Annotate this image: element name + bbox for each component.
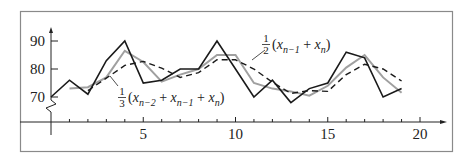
fraction-denominator: 2 bbox=[263, 44, 269, 56]
x-tick-label: 10 bbox=[228, 126, 243, 142]
y-axis-arrow-icon bbox=[49, 27, 53, 33]
moving-average-chart: 5101520 708090 1 2 (xn−1 + xn) 1 3 (xn−2… bbox=[0, 0, 470, 162]
x-axis-arrow-icon bbox=[440, 120, 447, 124]
fraction-numerator: 1 bbox=[119, 85, 125, 97]
x-tick-label: 20 bbox=[413, 126, 428, 142]
x-tick-label: 5 bbox=[140, 126, 148, 142]
annotation-third-average: 1 3 (xn−2 + xn−1 + xn) bbox=[110, 76, 225, 109]
series-lines bbox=[51, 41, 402, 103]
y-tick-label: 90 bbox=[30, 33, 45, 49]
y-tick-label: 70 bbox=[30, 89, 45, 105]
y-axis-break-icon bbox=[46, 100, 56, 112]
x-tick-label: 15 bbox=[320, 126, 335, 142]
series-line-solid-black bbox=[51, 41, 402, 103]
x-ticks: 5101520 bbox=[69, 117, 427, 142]
annotation-pointer bbox=[110, 76, 118, 86]
axes: 5101520 708090 bbox=[20, 27, 447, 142]
annotation-half-average: 1 2 (xn−1 + xn) bbox=[252, 32, 331, 60]
y-tick-label: 80 bbox=[30, 61, 45, 77]
annotation-formula: (xn−2 + xn−1 + xn) bbox=[128, 90, 225, 108]
fraction-numerator: 1 bbox=[263, 32, 269, 44]
fraction-denominator: 3 bbox=[119, 97, 125, 109]
annotation-formula: (xn−1 + xn) bbox=[272, 37, 331, 55]
